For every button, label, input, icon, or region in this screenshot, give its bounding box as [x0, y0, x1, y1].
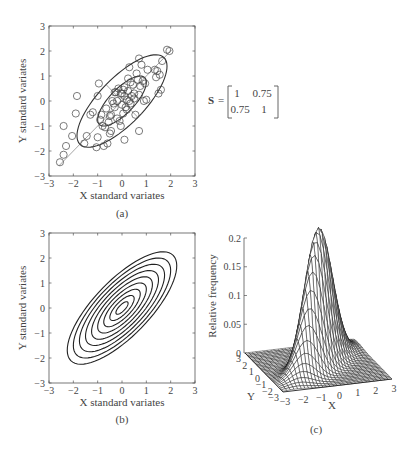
data-point — [166, 47, 173, 54]
data-point — [69, 132, 76, 139]
y-tick-label: −2 — [34, 146, 45, 157]
y-tick-label: −2 — [34, 353, 45, 364]
matrix-symbol: S — [208, 94, 214, 106]
contour-line — [79, 264, 164, 352]
data-point — [143, 96, 150, 103]
y-tick-label: 3 — [40, 228, 45, 239]
data-point — [144, 66, 151, 73]
contour-plot-panel: −3−2−10123−3−2−10123 X standard variates… — [16, 228, 198, 427]
y-tick-label: 0 — [40, 303, 45, 314]
y-tick-label: −1 — [34, 121, 45, 132]
matrix-cell-2-2: 1 — [261, 103, 267, 115]
y-axis-label: Y — [247, 390, 255, 402]
x-tick-label: −1 — [92, 385, 103, 396]
z-axis-ticks: 00.050.10.150.2 — [224, 233, 248, 359]
surface-plot-panel: 00.050.10.150.2 −3−2−101233210−1−2−3 Rel… — [206, 228, 397, 436]
x-tick-label: 2 — [168, 385, 173, 396]
x-tick-label: −1 — [316, 392, 327, 403]
x-tick-label: −1 — [92, 178, 103, 189]
x-tick-label: −2 — [68, 178, 79, 189]
data-point — [60, 151, 67, 158]
x-axis-label: X — [328, 399, 336, 411]
data-points — [56, 46, 173, 166]
x-tick-label: 2 — [168, 178, 173, 189]
x-tick-label: 1 — [144, 178, 149, 189]
y-tick-label: 1 — [40, 71, 45, 82]
x-tick-label: −2 — [298, 394, 309, 405]
matrix-cell-2-1: 0.75 — [230, 103, 250, 115]
matrix-cell-1-2: 0.75 — [252, 87, 272, 99]
confidence-ellipses — [59, 50, 172, 166]
y-tick-label: 2 — [242, 360, 247, 371]
contour-line — [92, 277, 153, 340]
y-tick-label: 2 — [40, 253, 45, 264]
x-tick-label: −3 — [44, 385, 55, 396]
covariance-matrix: S = 1 0.75 0.75 1 — [208, 86, 278, 118]
x-tick-label: −3 — [44, 178, 55, 189]
x-tick-label: 1 — [144, 385, 149, 396]
x-tick-label: 3 — [392, 383, 397, 394]
data-point — [72, 110, 79, 117]
right-bracket — [274, 86, 278, 118]
y-tick-label: −3 — [268, 392, 279, 403]
matrix-equals: = — [218, 94, 224, 106]
z-tick-label: 0.1 — [229, 290, 242, 301]
major-axis-line — [59, 50, 172, 166]
panel-caption: (a) — [116, 207, 129, 220]
contour-line — [86, 271, 159, 346]
surface-mesh — [245, 228, 392, 392]
y-tick-label: −1 — [34, 328, 45, 339]
x-axis-label: X standard variates — [80, 189, 165, 201]
data-point — [94, 134, 101, 141]
matrix-cell-1-1: 1 — [234, 87, 240, 99]
data-point — [95, 80, 102, 87]
data-point — [135, 127, 142, 134]
x-tick-label: 0 — [120, 178, 125, 189]
panel-caption: (c) — [310, 423, 323, 436]
x-axis-label: X standard variates — [80, 396, 165, 408]
data-point — [73, 92, 80, 99]
data-point — [93, 144, 100, 151]
data-point — [83, 132, 90, 139]
y-tick-label: 3 — [40, 21, 45, 32]
x-tick-label: 1 — [355, 387, 360, 398]
x-tick-label: −2 — [68, 385, 79, 396]
data-point — [159, 57, 166, 64]
figure: −3−2−10123−3−2−10123 X standard variates… — [0, 0, 417, 451]
data-point — [117, 122, 124, 129]
y-tick-label: 3 — [236, 353, 241, 364]
x-tick-label: 0 — [120, 385, 125, 396]
z-tick-label: 0.15 — [224, 261, 242, 272]
y-tick-label: 1 — [249, 366, 254, 377]
z-axis-label: Relative frequency — [206, 254, 218, 338]
y-tick-label: 2 — [40, 46, 45, 57]
x-tick-label: 3 — [193, 178, 198, 189]
y-tick-label: 1 — [40, 278, 45, 289]
contour-lines — [67, 252, 177, 365]
data-point — [103, 105, 110, 112]
data-point — [81, 140, 88, 147]
y-axis-label: Y standard variates — [16, 266, 28, 351]
x-tick-label: 3 — [193, 385, 198, 396]
data-point — [107, 127, 114, 134]
y-tick-label: −3 — [34, 171, 45, 182]
panel-caption: (b) — [116, 413, 129, 426]
y-tick-label: 0 — [40, 96, 45, 107]
scatter-plot-panel: −3−2−10123−3−2−10123 X standard variates… — [16, 21, 198, 221]
contour-line — [67, 252, 177, 365]
data-point — [121, 136, 128, 143]
y-tick-label: −3 — [34, 378, 45, 389]
z-tick-label: 0.05 — [224, 319, 242, 330]
y-axis-label: Y standard variates — [16, 59, 28, 144]
z-tick-label: 0.2 — [229, 233, 242, 244]
data-point — [60, 122, 67, 129]
x-tick-label: −3 — [280, 396, 291, 407]
x-tick-label: 2 — [373, 385, 378, 396]
x-tick-label: 0 — [337, 390, 342, 401]
data-point — [62, 142, 69, 149]
